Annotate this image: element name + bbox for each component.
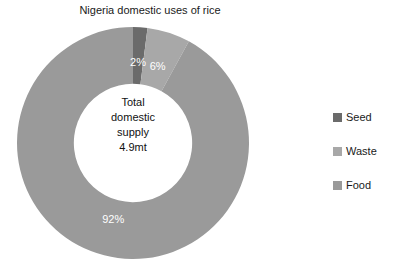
chart-figure: Nigeria domestic uses of rice 2%6%92% To… [0, 0, 395, 276]
chart-title: Nigeria domestic uses of rice [0, 3, 300, 17]
donut-slice-label-food: 92% [102, 213, 124, 225]
chart-legend: SeedWasteFood [333, 110, 395, 192]
legend-swatch-icon [333, 147, 342, 156]
center-line-2: domestic [74, 110, 192, 125]
legend-swatch-icon [333, 113, 342, 122]
legend-item-waste[interactable]: Waste [333, 144, 395, 158]
center-line-3: supply [74, 125, 192, 140]
center-line-1: Total [74, 95, 192, 110]
donut-slice-label-waste: 6% [150, 60, 166, 72]
legend-item-label: Waste [346, 145, 377, 157]
legend-swatch-icon [333, 181, 342, 190]
legend-item-label: Food [346, 179, 371, 191]
legend-item-label: Seed [346, 111, 372, 123]
legend-item-food[interactable]: Food [333, 178, 395, 192]
donut-center-annotation: Total domestic supply 4.9mt [74, 95, 192, 155]
center-line-4: 4.9mt [74, 140, 192, 155]
donut-slice-label-seed: 2% [130, 56, 146, 68]
legend-item-seed[interactable]: Seed [333, 110, 395, 124]
